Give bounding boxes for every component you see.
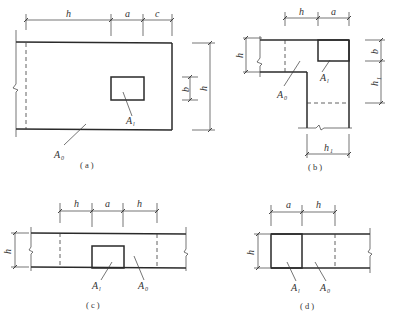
break-line	[257, 36, 262, 77]
local-compression-diagram: h a c A l A 0 b	[0, 0, 393, 317]
dim-top-c: h a h	[58, 198, 159, 227]
label-A0: A	[319, 282, 327, 293]
caption-b: ( b )	[308, 162, 322, 172]
dim-right-b: b h 1	[365, 38, 385, 105]
bearing-area-d	[271, 234, 302, 268]
label-A1: A	[319, 72, 327, 83]
dim-label: h	[299, 6, 304, 17]
dim-sub: 1	[330, 148, 333, 154]
dim-label: h	[137, 198, 142, 209]
dim-label: h	[369, 81, 380, 86]
dim-label: h	[324, 142, 329, 153]
dim-label: b	[180, 87, 191, 92]
dim-left-c: h	[2, 231, 29, 269]
dim-label: h	[74, 198, 79, 209]
caption-c: ( c )	[86, 300, 100, 310]
dim-top-b: h a	[283, 6, 351, 26]
dim-label: a	[105, 198, 110, 209]
dim-label: b	[369, 49, 380, 54]
label-A0-sub: 0	[284, 95, 287, 101]
label-A0: A	[53, 149, 61, 160]
dim-label: h	[66, 8, 71, 19]
figure-d: a h A l A 0 h ( d )	[245, 199, 372, 311]
dim-sub: 1	[376, 77, 382, 80]
dim-left-b: h	[234, 36, 262, 74]
bearing-area-b	[318, 40, 349, 61]
dim-label: h	[316, 199, 321, 210]
figure-b: h a A l A 0 h	[234, 6, 385, 172]
label-A0-sub: 0	[327, 288, 330, 294]
caption-d: ( d )	[300, 301, 314, 311]
dim-label: a	[125, 8, 130, 19]
dim-label: c	[155, 8, 160, 19]
dim-top-a: h a c	[24, 8, 174, 36]
label-A0-sub: 0	[61, 155, 64, 161]
label-A1: A	[91, 280, 99, 291]
dim-label: h	[234, 53, 245, 58]
bearing-area-c	[92, 246, 124, 268]
dim-label: h	[245, 250, 256, 255]
dim-bottom-b: h 1	[305, 134, 351, 158]
bearing-area-a	[111, 77, 144, 100]
dim-label: h	[2, 249, 13, 254]
label-A0: A	[276, 89, 284, 100]
dim-left-d: h	[245, 232, 270, 270]
dim-label: a	[331, 6, 336, 17]
label-A1: A	[290, 282, 298, 293]
label-A1: A	[125, 115, 133, 126]
label-A1-sub: l	[298, 288, 300, 294]
dim-label: a	[286, 199, 291, 210]
dim-label: h	[198, 86, 209, 91]
figure-a: h a c A l A 0 b	[13, 8, 215, 170]
break-line	[298, 125, 352, 130]
label-A0-sub: 0	[145, 286, 148, 292]
dim-right-a: b h	[180, 41, 215, 132]
figure-c: h a h A l A 0 h ( c )	[2, 198, 188, 310]
label-A1-sub: l	[327, 78, 329, 84]
dim-top-d: a h	[269, 199, 337, 226]
label-A1-sub: l	[133, 121, 135, 127]
label-A0: A	[137, 280, 145, 291]
caption-a: ( a )	[80, 160, 94, 170]
break-line	[13, 30, 18, 137]
label-A1-sub: l	[99, 286, 101, 292]
